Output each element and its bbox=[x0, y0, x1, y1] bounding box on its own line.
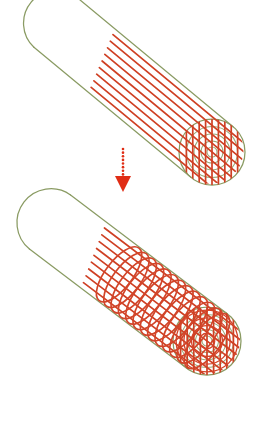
arrow-shaft-dot bbox=[122, 162, 125, 165]
arrow-shaft-dot bbox=[122, 159, 125, 162]
arrow-shaft-dot bbox=[122, 148, 125, 151]
arrow-shaft-dot bbox=[122, 155, 125, 158]
arrow-shaft-dot bbox=[122, 151, 125, 154]
capsule-transformation-figure bbox=[0, 0, 256, 432]
figure-root bbox=[0, 0, 256, 432]
arrow-shaft-dot bbox=[122, 169, 125, 172]
arrow-shaft-dot bbox=[122, 173, 125, 176]
arrow-shaft-dot bbox=[122, 166, 125, 169]
